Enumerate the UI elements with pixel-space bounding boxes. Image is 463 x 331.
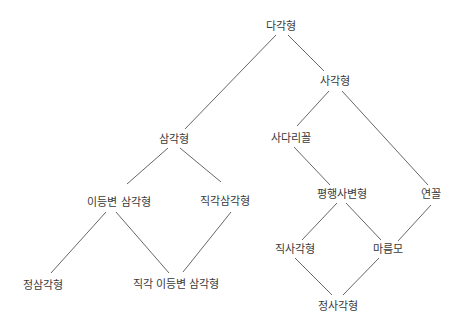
node-equilateral: 정삼각형: [23, 280, 63, 291]
node-rhombus: 마름모: [373, 244, 403, 255]
node-triangle: 삼각형: [159, 134, 189, 145]
node-quadrilateral: 사각형: [320, 76, 350, 87]
polygon-hierarchy-diagram: 다각형사각형삼각형사다리꼴이등변 삼각형직각삼각형평행사변형연꼴직사각형마름모정…: [0, 0, 463, 331]
edge-triangle-to-isosceles: [127, 148, 168, 184]
edge-trapezoid-to-parallelogram: [294, 147, 330, 185]
edges-layer: [0, 0, 463, 331]
edge-rectangle-to-square: [295, 258, 332, 295]
edge-isosceles-to-equilateral: [51, 212, 106, 273]
node-right-isosceles: 직각 이등변 삼각형: [133, 279, 220, 290]
edge-parallelogram-to-rhombus: [346, 203, 381, 240]
node-right-triangle: 직각삼각형: [200, 196, 250, 207]
edge-parallelogram-to-rectangle: [302, 203, 337, 240]
node-polygon: 다각형: [266, 21, 296, 32]
node-trapezoid: 사다리꼴: [271, 133, 311, 144]
edge-polygon-to-quadrilateral: [288, 35, 324, 71]
node-parallelogram: 평행사변형: [317, 189, 367, 200]
edge-triangle-to-right-triangle: [180, 148, 221, 182]
node-rectangle: 직사각형: [275, 244, 315, 255]
edge-isosceles-to-right-isosceles: [116, 212, 169, 273]
edge-kite-to-rhombus: [398, 205, 431, 241]
edge-quadrilateral-to-kite: [342, 91, 428, 185]
node-kite: 연꼴: [421, 189, 441, 200]
node-square: 정사각형: [318, 301, 358, 312]
edge-right-triangle-to-right-isosceles: [183, 212, 231, 272]
edge-quadrilateral-to-trapezoid: [297, 91, 329, 126]
node-isosceles: 이등변 삼각형: [87, 197, 151, 208]
edge-rhombus-to-square: [343, 258, 379, 295]
edge-polygon-to-triangle: [185, 35, 276, 129]
